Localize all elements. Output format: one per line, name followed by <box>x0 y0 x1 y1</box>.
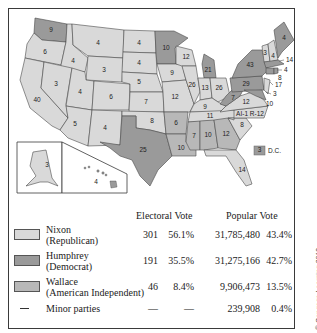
label-vt: 3 <box>263 49 267 56</box>
swatch-humphrey <box>14 255 40 266</box>
legend-row-nixon: Nixon(Republican) 301 56.1% 31,785,480 4… <box>8 222 295 248</box>
label-ny: 43 <box>246 61 254 68</box>
state-nj <box>264 78 270 94</box>
label-or: 6 <box>43 48 47 55</box>
label-mn: 10 <box>162 44 170 51</box>
candidate-name: Humphrey(Democrat) <box>46 250 92 272</box>
legend-row-humphrey: Humphrey(Democrat) 191 35.5% 31,275,166 … <box>8 248 295 274</box>
header-electoral-vote: Electoral Vote <box>136 210 193 221</box>
swatch-nixon <box>14 229 40 240</box>
label-ne: 5 <box>137 78 141 85</box>
label-nc: AI-1 R-12 <box>236 110 264 117</box>
popular-pct: 13.5% <box>262 281 292 292</box>
dc-votes: 3 <box>258 146 262 153</box>
label-mo: 12 <box>171 93 179 100</box>
label-nh: 4 <box>271 52 275 59</box>
label-ar: 6 <box>174 119 178 126</box>
electoral-pct: 35.5% <box>160 255 194 266</box>
electoral-votes: 46 <box>136 281 158 292</box>
popular-votes: 239,908 <box>208 303 260 314</box>
label-wa: 9 <box>49 26 53 33</box>
label-ia: 9 <box>170 69 174 76</box>
label-ks: 7 <box>144 98 148 105</box>
label-wi: 12 <box>182 53 190 60</box>
label-de: 3 <box>273 90 277 97</box>
label-tx: 25 <box>139 146 147 153</box>
popular-votes: 9,906,473 <box>208 281 260 292</box>
label-nm: 4 <box>103 124 107 131</box>
electoral-votes: 301 <box>136 229 158 240</box>
label-co: 6 <box>109 93 113 100</box>
legend-row-minor-parties: Minor parties — — 239,908 0.4% <box>8 302 295 328</box>
popular-pct: 0.4% <box>262 303 292 314</box>
label-sc: 8 <box>240 121 244 128</box>
electoral-pct: — <box>160 303 194 314</box>
popular-votes: 31,785,480 <box>208 229 260 240</box>
label-wy: 3 <box>102 66 106 73</box>
label-nv: 3 <box>54 80 58 87</box>
label-ak: 3 <box>45 161 49 168</box>
electoral-votes: — <box>136 303 158 314</box>
label-ky: 9 <box>203 103 207 110</box>
label-oh: 26 <box>215 84 223 91</box>
label-id: 4 <box>71 57 75 64</box>
popular-votes: 31,275,166 <box>208 255 260 266</box>
label-sd: 4 <box>137 59 141 66</box>
label-me: 4 <box>282 34 286 41</box>
label-ri: 4 <box>284 66 288 73</box>
label-in: 13 <box>201 84 209 91</box>
label-pa: 29 <box>242 80 250 87</box>
swatch-wallace <box>14 281 40 292</box>
electoral-votes: 191 <box>136 255 158 266</box>
label-fl: 14 <box>238 166 246 173</box>
label-va: 12 <box>242 98 250 105</box>
label-md: 10 <box>266 100 274 107</box>
candidate-name: Wallace(American Independent) <box>46 276 144 298</box>
copyright-notice: © Cengage Learning 2013 <box>315 250 317 330</box>
label-nd: 4 <box>137 39 141 46</box>
label-la: 10 <box>177 144 185 151</box>
label-ga: 12 <box>222 130 230 137</box>
label-mi: 21 <box>204 66 212 73</box>
label-wv: 7 <box>231 94 235 101</box>
dc-label: D.C. <box>268 147 281 154</box>
label-hi: 4 <box>94 178 98 185</box>
popular-pct: 42.7% <box>262 255 292 266</box>
electoral-pct: 56.1% <box>160 229 194 240</box>
label-al: 10 <box>204 131 212 138</box>
label-mt: 4 <box>96 39 100 46</box>
label-ct: 8 <box>278 74 282 81</box>
label-nj: 17 <box>275 81 283 88</box>
us-election-map: 9 6 40 4 3 4 3 4 5 6 4 4 4 5 7 8 25 10 9… <box>0 0 317 210</box>
dash-marker <box>20 308 29 309</box>
legend-row-wallace: Wallace(American Independent) 46 8.4% 9,… <box>8 274 295 300</box>
label-ca: 40 <box>33 96 41 103</box>
label-ok: 8 <box>150 117 154 124</box>
label-ut: 4 <box>78 88 82 95</box>
label-il: 26 <box>188 81 196 88</box>
candidate-name: Nixon(Republican) <box>46 224 98 246</box>
candidate-name: Minor parties <box>46 303 100 314</box>
label-az: 5 <box>73 120 77 127</box>
label-ma: 14 <box>286 56 294 63</box>
label-tn: 11 <box>207 112 214 119</box>
label-ms: 7 <box>192 132 196 139</box>
electoral-pct: 8.4% <box>160 281 194 292</box>
state-ct <box>266 68 274 74</box>
popular-pct: 43.4% <box>262 229 292 240</box>
header-popular-vote: Popular Vote <box>226 210 278 221</box>
